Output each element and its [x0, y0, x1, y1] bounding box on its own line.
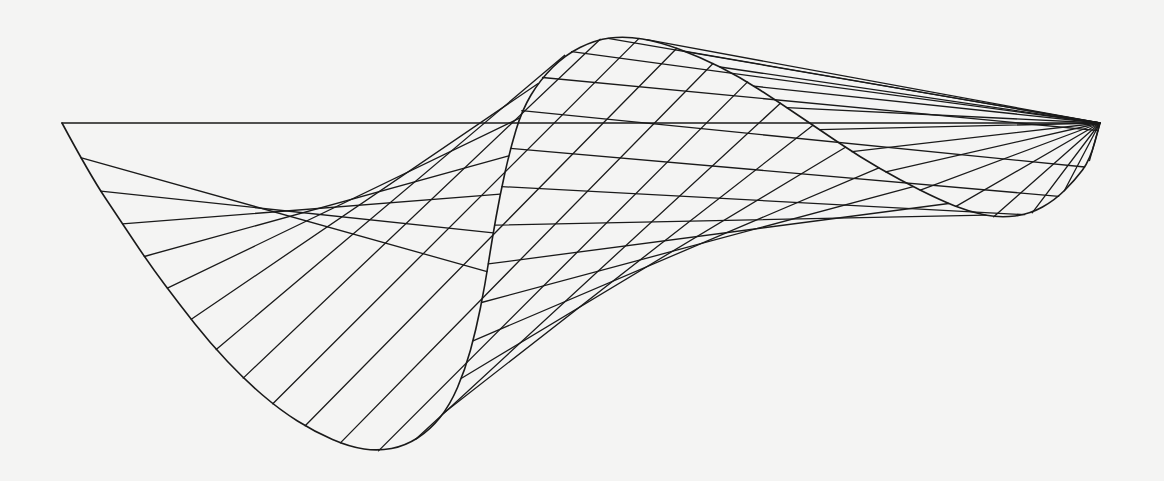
line-segments — [62, 37, 1100, 451]
ruled-surface-drawing — [0, 0, 1164, 481]
